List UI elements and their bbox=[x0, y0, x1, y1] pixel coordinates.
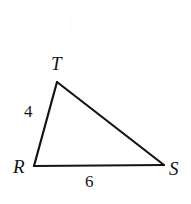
vertex-label-r: R bbox=[13, 157, 25, 176]
side-length-label-rt: 4 bbox=[24, 103, 33, 120]
geometry-figure: T R S 4 6 bbox=[0, 0, 191, 204]
side-length-label-rs: 6 bbox=[85, 173, 94, 190]
side-TS-line bbox=[57, 82, 164, 165]
vertex-label-s: S bbox=[169, 159, 179, 178]
side-RS-line bbox=[34, 165, 164, 166]
side-RT-line bbox=[34, 82, 57, 166]
vertex-label-t: T bbox=[51, 54, 62, 73]
